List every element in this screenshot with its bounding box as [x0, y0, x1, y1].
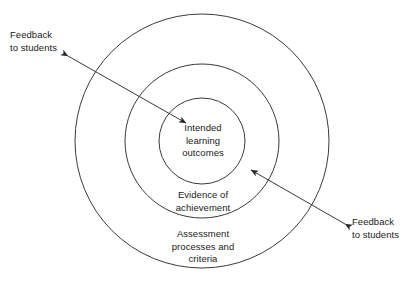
feedback-bottomright-arrow [251, 170, 345, 224]
feedback-topleft-label: Feedback to students [10, 29, 102, 54]
outer-ring-label: Assessment processes and criteria [142, 228, 264, 266]
middle-ring-label: Evidence of achievement [157, 189, 249, 214]
feedback-bottomright-label: Feedback to students [352, 216, 416, 241]
diagram-canvas: Intended learning outcomes Evidence of a… [0, 0, 416, 284]
inner-ring-label: Intended learning outcomes [163, 122, 243, 160]
